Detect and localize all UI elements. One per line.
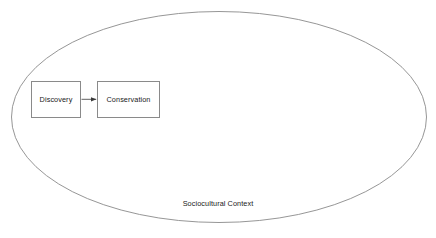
diagram-canvas: Discovery Conservation Sociocultural Con… bbox=[0, 0, 436, 238]
sociocultural-context-label: Sociocultural Context bbox=[0, 200, 436, 207]
node-discovery[interactable]: Discovery bbox=[31, 81, 81, 118]
node-conservation[interactable]: Conservation bbox=[97, 81, 160, 118]
node-discovery-label: Discovery bbox=[40, 96, 73, 103]
node-conservation-label: Conservation bbox=[107, 96, 151, 103]
